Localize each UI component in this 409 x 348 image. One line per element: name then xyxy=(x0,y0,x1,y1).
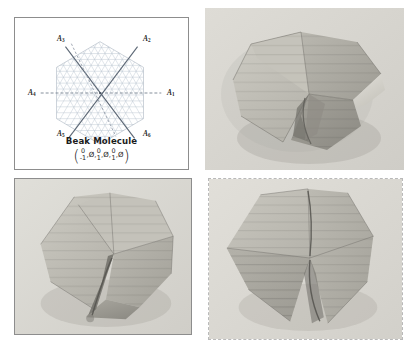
origami-photo-bottom-left xyxy=(15,179,191,334)
vector-close-paren: ) xyxy=(124,146,130,165)
origami-photo-bottom-right xyxy=(209,179,402,339)
figure-container: A1 A2 A3 A4 A5 A6 Beak Molecule (0-1,Ø,0… xyxy=(0,0,409,348)
diagram-vector-notation: (0-1,Ø,01,Ø,01,Ø) xyxy=(15,148,188,164)
diagram-caption-title: Beak Molecule xyxy=(15,136,188,146)
panel-diagram: A1 A2 A3 A4 A5 A6 Beak Molecule (0-1,Ø,0… xyxy=(14,17,189,170)
axis-label-a3: A3 xyxy=(57,35,65,43)
panel-photo-top-right xyxy=(205,8,404,170)
origami-photo-top-right xyxy=(205,8,404,170)
center-vertex xyxy=(99,92,101,94)
axis-label-a2: A2 xyxy=(143,35,151,43)
diagram-inner: A1 A2 A3 A4 A5 A6 Beak Molecule (0-1,Ø,0… xyxy=(15,18,188,169)
panel-photo-bottom-right xyxy=(208,178,403,340)
vector-open-paren: ( xyxy=(73,146,79,165)
lattice-diagram-graphic xyxy=(15,18,188,169)
axis-label-a4: A4 xyxy=(28,89,36,97)
panel-photo-bottom-left xyxy=(14,178,192,335)
axis-label-a1: A1 xyxy=(167,89,175,97)
